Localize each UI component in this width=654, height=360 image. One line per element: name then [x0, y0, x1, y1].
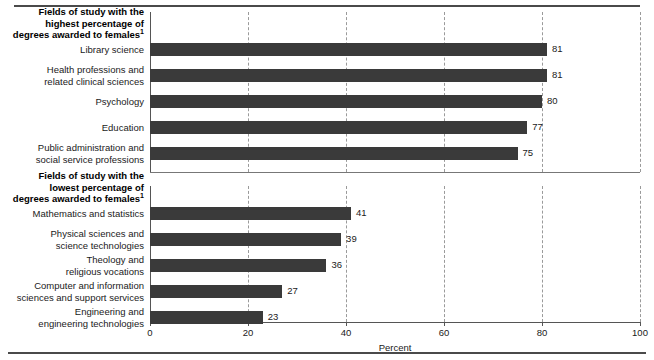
gridline-100	[640, 12, 641, 172]
bar-value-label: 39	[346, 232, 357, 245]
bar	[150, 285, 282, 298]
bar	[150, 311, 263, 324]
bar-value-label: 41	[356, 206, 367, 219]
gridline-100	[640, 186, 641, 322]
bar-row: 77	[150, 121, 640, 134]
bar-row: 80	[150, 95, 640, 108]
category-label: Physical sciences and science technologi…	[0, 228, 144, 251]
category-label: Engineering and engineering technologies	[0, 306, 144, 329]
heading-footnote-marker: 1	[140, 192, 144, 199]
bar-value-label: 36	[331, 258, 342, 271]
category-label: Education	[0, 122, 144, 134]
bar-row: 75	[150, 147, 640, 160]
category-label: Computer and information sciences and su…	[0, 280, 144, 303]
x-tick-label-60: 60	[439, 327, 450, 338]
x-tick-label-20: 20	[243, 327, 254, 338]
bar	[150, 259, 326, 272]
panel-heading-lowest: Fields of study with the lowest percenta…	[0, 170, 144, 205]
bar-value-label: 81	[552, 68, 563, 81]
bar-value-label: 77	[532, 120, 543, 133]
bar	[150, 69, 547, 82]
bar-value-label: 80	[547, 94, 558, 107]
x-tick-label-100: 100	[632, 327, 648, 338]
heading-footnote-marker: 1	[140, 28, 144, 35]
panel-divider	[150, 172, 640, 173]
category-label: Psychology	[0, 96, 144, 108]
x-tick-label-0: 0	[147, 327, 152, 338]
bar-value-label: 81	[552, 42, 563, 55]
x-tick-label-80: 80	[537, 327, 548, 338]
bar-row: 36	[150, 259, 640, 272]
category-label: Theology and religious vocations	[0, 254, 144, 277]
bar	[150, 121, 527, 134]
panel-heading-highest: Fields of study with the highest percent…	[0, 6, 144, 41]
bar	[150, 95, 542, 108]
bar	[150, 43, 547, 56]
bar-value-label: 75	[523, 146, 534, 159]
bar-value-label: 27	[287, 284, 298, 297]
bottom-rule	[8, 352, 646, 354]
category-label: Health professions and related clinical …	[0, 64, 144, 87]
bar-row: 23	[150, 311, 640, 324]
bar-row: 81	[150, 69, 640, 82]
bar-value-label: 23	[268, 310, 279, 323]
bar-row: 41	[150, 207, 640, 220]
category-label: Public administration and social service…	[0, 142, 144, 165]
x-tick-mark-100	[640, 322, 641, 326]
category-label: Mathematics and statistics	[0, 208, 144, 220]
category-label: Library science	[0, 44, 144, 56]
bar	[150, 207, 351, 220]
bar	[150, 233, 341, 246]
bar	[150, 147, 518, 160]
x-axis: 020406080100 Percent	[150, 322, 640, 360]
chart-figure: 020406080100 Percent Fields of study wit…	[0, 0, 654, 360]
bar-row: 39	[150, 233, 640, 246]
x-tick-label-40: 40	[341, 327, 352, 338]
bar-row: 27	[150, 285, 640, 298]
bar-row: 81	[150, 43, 640, 56]
